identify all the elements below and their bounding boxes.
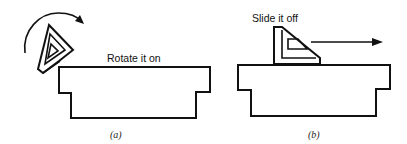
panel-b: Slide it off (b) [238,12,390,141]
caption-a: (a) [110,129,122,141]
annotation-slide: Slide it off [252,12,298,24]
slide-arrowhead-icon [372,38,383,46]
block-a [59,67,210,118]
caption-b: (b) [308,129,320,141]
panel-a: Rotate it on (a) [25,13,210,141]
set-square-a [38,25,73,73]
diagram-canvas: Rotate it on (a) Slide it off (b) [0,0,407,144]
block-b [238,65,390,116]
set-square-b [274,27,320,64]
annotation-rotate: Rotate it on [107,52,161,64]
